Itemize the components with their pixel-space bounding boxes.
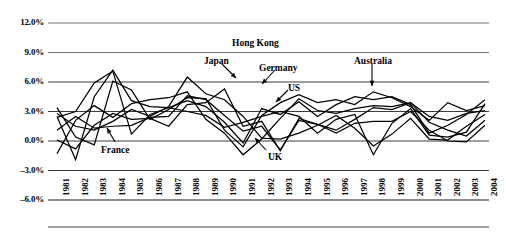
x-tick-label: 2002: [452, 178, 462, 196]
x-tick-label: 1985: [135, 178, 145, 196]
x-tick-label: 1989: [210, 178, 220, 196]
x-tick-label: 1994: [303, 178, 313, 196]
x-tick-label: 1993: [284, 178, 294, 196]
x-tick-label: 1991: [247, 178, 257, 196]
x-tick-label: 1988: [191, 178, 201, 196]
annotation-arrows: [107, 64, 374, 150]
x-tick-label: 2000: [415, 178, 425, 196]
y-tick-label: 12.0%: [0, 17, 44, 27]
annotation-label: UK: [268, 152, 282, 162]
y-tick-label: 0.0%: [0, 135, 44, 145]
line-chart: 12.0%9.0%6.0%3.0%0.0%–3.0%–6.0% 19811982…: [0, 0, 506, 245]
annotation-label: US: [288, 83, 300, 93]
annotation-label: Japan: [204, 56, 229, 66]
annotation-label: Australia: [354, 56, 392, 66]
x-tick-label: 1987: [173, 178, 183, 196]
x-tick-label: 2003: [470, 178, 480, 196]
x-tick-label: 1984: [117, 178, 127, 196]
x-tick-label: 1998: [377, 178, 387, 196]
x-tick-label: 1983: [98, 178, 108, 196]
y-tick-label: 6.0%: [0, 76, 44, 86]
annotation-label: France: [101, 145, 130, 155]
x-tick-label: 2001: [433, 178, 443, 196]
x-tick-label: 1982: [80, 178, 90, 196]
y-tick-label: –3.0%: [0, 165, 44, 175]
x-tick-label: 1995: [322, 178, 332, 196]
x-tick-label: 2004: [489, 178, 499, 196]
x-tick-label: 1990: [228, 178, 238, 196]
annotation-label: Germany: [259, 63, 298, 73]
y-tick-label: 9.0%: [0, 47, 44, 57]
chart-canvas: [0, 0, 506, 245]
x-tick-label: 1981: [61, 178, 71, 196]
y-tick-label: 3.0%: [0, 106, 44, 116]
annotation-arrow-head: [370, 81, 375, 86]
x-tick-label: 1999: [396, 178, 406, 196]
annotation-label: Hong Kong: [232, 38, 279, 48]
y-tick-label: –6.0%: [0, 194, 44, 204]
x-tick-label: 1997: [359, 178, 369, 196]
x-tick-label: 1992: [266, 178, 276, 196]
x-tick-label: 1996: [340, 178, 350, 196]
x-tick-label: 1986: [154, 178, 164, 196]
